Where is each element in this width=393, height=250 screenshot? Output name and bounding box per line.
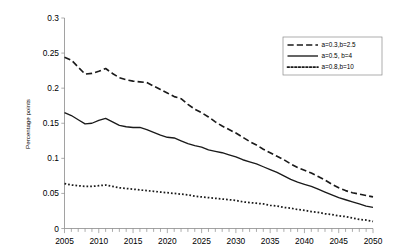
legend-entry-label-3: a=0.8,b=10 (322, 63, 355, 70)
x-axis-tick-label: 2020 (158, 236, 177, 246)
legend-entry-label-1: a=0.3,b=2.5 (322, 41, 357, 48)
y-axis-tick-label: 0.2 (47, 83, 59, 93)
x-axis-tick-label: 2025 (192, 236, 211, 246)
y-axis-tick-label: 0.25 (43, 48, 60, 58)
y-axis-tick-label: 0.1 (47, 153, 59, 163)
y-axis-title-label: Percentage points (24, 99, 31, 149)
x-axis-tick-label: 2035 (261, 236, 280, 246)
x-axis-tick-label: 2040 (295, 236, 314, 246)
legend-entry-label-2: a=0.5, b=4 (322, 52, 353, 59)
y-axis-title: Percentage points (24, 99, 31, 149)
chart-container: 00.050.10.150.20.250.3 20052010201520202… (0, 0, 393, 250)
x-axis-tick-label: 2015 (124, 236, 143, 246)
y-axis-tick-label: 0 (54, 224, 59, 234)
x-axis-tick-label: 2050 (364, 236, 383, 246)
y-axis-tick-label: 0.3 (47, 13, 59, 23)
chart-legend: a=0.3,b=2.5a=0.5, b=4a=0.8,b=10 (283, 37, 382, 75)
y-axis-tick-label: 0.05 (43, 188, 60, 198)
x-axis-tick-label: 2045 (329, 236, 348, 246)
line-chart: 00.050.10.150.20.250.3 20052010201520202… (0, 0, 393, 250)
x-axis-tick-label: 2030 (227, 236, 246, 246)
x-axis-tick-label: 2005 (55, 236, 74, 246)
y-axis-tick-label: 0.15 (43, 118, 60, 128)
x-axis-tick-label: 2010 (89, 236, 108, 246)
